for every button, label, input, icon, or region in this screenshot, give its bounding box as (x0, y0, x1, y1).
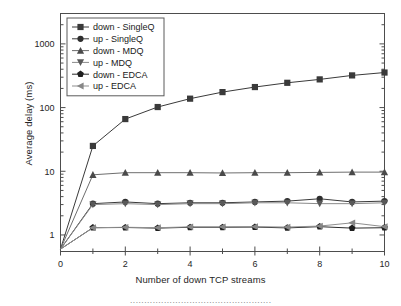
data-point-marker (155, 104, 161, 110)
legend-label: up - EDCA (93, 81, 136, 91)
figure-caption: ········································… (0, 297, 401, 306)
legend-marker-sample (77, 24, 83, 30)
figure-container: 0246810 1101001000 down - SingleQup - Si… (0, 0, 401, 306)
legend-marker-sample (77, 36, 83, 42)
y-tick-label: 100 (39, 103, 54, 113)
y-tick-label: 1 (49, 230, 54, 240)
x-tick-label: 10 (379, 259, 389, 269)
y-tick-label: 10 (44, 167, 54, 177)
data-point-marker (219, 89, 225, 95)
x-tick-label: 4 (188, 259, 193, 269)
data-point-marker (381, 69, 387, 75)
legend-label: down - MDQ (93, 46, 144, 56)
data-point-marker (122, 116, 128, 122)
chart-legend: down - SingleQup - SingleQdown - MDQup -… (67, 18, 164, 96)
x-tick-label: 6 (252, 259, 257, 269)
data-point-marker (90, 143, 96, 149)
x-axis-title: Number of down TCP streams (0, 274, 401, 285)
legend-label: up - MDQ (93, 58, 132, 68)
x-tick-label: 0 (58, 259, 63, 269)
y-tick-label: 1000 (34, 39, 54, 49)
legend-label: down - EDCA (93, 70, 148, 80)
data-point-marker (317, 76, 323, 82)
data-point-marker (284, 80, 290, 86)
data-point-marker (252, 84, 258, 90)
x-tick-label: 8 (317, 259, 322, 269)
average-delay-line-chart: 0246810 1101001000 down - SingleQup - Si… (0, 0, 401, 306)
x-tick-label: 2 (123, 259, 128, 269)
legend-label: down - SingleQ (93, 22, 155, 32)
data-point-marker (349, 72, 355, 78)
data-point-marker (187, 96, 193, 102)
legend-label: up - SingleQ (93, 34, 143, 44)
y-axis-title: Average delay (ms) (23, 44, 34, 204)
